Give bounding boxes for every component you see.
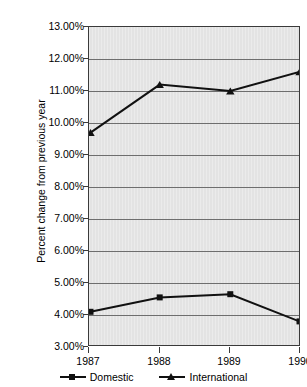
series-line-domestic	[91, 294, 300, 321]
triangle-marker	[167, 373, 175, 380]
x-axis-tick-mark	[88, 347, 89, 353]
data-point-marker	[89, 309, 94, 315]
legend-label: International	[189, 371, 247, 383]
y-axis-tick-label: 7.00%	[26, 213, 84, 223]
line-chart: Percent change from previous year 13.00%…	[0, 0, 307, 387]
y-axis-tick-label: 4.00%	[26, 309, 84, 319]
x-axis-tick-label: 1988	[134, 355, 184, 367]
y-axis-tick-label: 12.00%	[26, 53, 84, 63]
y-axis-tick-label: 5.00%	[26, 277, 84, 287]
data-point-marker	[227, 291, 233, 297]
x-axis-tick-mark	[299, 347, 300, 353]
x-axis-tick-mark	[159, 347, 160, 353]
square-marker-icon	[60, 372, 86, 382]
y-axis-tick-label: 6.00%	[26, 245, 84, 255]
legend-entry-domestic[interactable]: Domestic	[60, 371, 134, 383]
series-line-international	[91, 72, 300, 133]
triangle-marker-icon	[159, 372, 185, 382]
y-axis-tick-label: 9.00%	[26, 149, 84, 159]
y-axis-tick-label: 8.00%	[26, 181, 84, 191]
y-axis-tick-label: 11.00%	[26, 85, 84, 95]
data-point-marker	[297, 318, 301, 324]
legend-label: Domestic	[90, 371, 134, 383]
x-axis-tick-label: 1990	[275, 355, 307, 367]
square-marker	[69, 374, 75, 380]
y-axis-tick-label: 10.00%	[26, 117, 84, 127]
data-point-marker	[157, 294, 163, 300]
x-axis-tick-label: 1987	[63, 355, 113, 367]
series-layer	[89, 27, 300, 346]
legend-entry-international[interactable]: International	[159, 371, 247, 383]
y-axis-tick-label: 13.00%	[26, 21, 84, 31]
plot-area	[88, 26, 300, 346]
chart-legend: DomesticInternational	[0, 371, 307, 383]
y-axis-tick-label: 3.00%	[26, 341, 84, 351]
x-axis-tick-label: 1989	[204, 355, 254, 367]
x-axis-tick-mark	[229, 347, 230, 353]
